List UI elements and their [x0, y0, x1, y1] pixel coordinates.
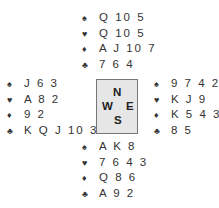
cards: Q 10 5	[99, 11, 146, 23]
heart-icon: ♥	[82, 27, 99, 42]
south-spades: ♠A K 8	[82, 139, 148, 155]
south-hearts: ♥7 6 4 3	[82, 155, 148, 171]
south-clubs: ♣A 9 2	[82, 186, 148, 202]
north-diamonds: ♦A J 10 7	[82, 41, 157, 57]
club-icon: ♣	[82, 187, 99, 202]
heart-icon: ♥	[82, 156, 99, 171]
club-icon: ♣	[82, 58, 99, 73]
west-spades: ♠J 6 3	[7, 76, 98, 92]
east-spades: ♠9 7 4 2	[154, 76, 219, 92]
west-clubs: ♣K Q J 10 3	[7, 123, 98, 139]
south-hand: ♠A K 8 ♥7 6 4 3 ♦Q 8 6 ♣A 9 2	[82, 139, 148, 201]
compass-west: W	[102, 100, 113, 112]
cards: 9 7 4 2	[171, 77, 219, 89]
cards: 9 2	[24, 108, 46, 120]
cards: K J 9	[171, 93, 207, 105]
east-diamonds: ♦K 5 4 3	[154, 107, 219, 123]
compass-box: N W E S	[96, 79, 138, 134]
cards: A 8 2	[24, 93, 60, 105]
diamond-icon: ♦	[82, 42, 99, 57]
spade-icon: ♠	[82, 140, 99, 155]
cards: A K 8	[99, 140, 137, 152]
east-clubs: ♣8 5	[154, 123, 219, 139]
north-hand: ♠Q 10 5 ♥Q 10 5 ♦A J 10 7 ♣7 6 4	[82, 10, 157, 72]
cards: K 5 4 3	[171, 108, 219, 120]
heart-icon: ♥	[154, 93, 171, 108]
cards: J 6 3	[24, 77, 59, 89]
compass-north: N	[113, 86, 121, 98]
north-clubs: ♣7 6 4	[82, 57, 157, 73]
west-hand: ♠J 6 3 ♥A 8 2 ♦9 2 ♣K Q J 10 3	[7, 76, 98, 138]
cards: Q 10 5	[99, 27, 146, 39]
spade-icon: ♠	[82, 11, 99, 26]
diamond-icon: ♦	[82, 171, 99, 186]
west-hearts: ♥A 8 2	[7, 92, 98, 108]
spade-icon: ♠	[154, 77, 171, 92]
west-diamonds: ♦9 2	[7, 107, 98, 123]
north-hearts: ♥Q 10 5	[82, 26, 157, 42]
cards: A J 10 7	[99, 42, 157, 54]
club-icon: ♣	[7, 124, 24, 139]
spade-icon: ♠	[7, 77, 24, 92]
cards: 7 6 4 3	[99, 156, 148, 168]
cards: K Q J 10 3	[24, 124, 98, 136]
cards: 8 5	[171, 124, 193, 136]
south-diamonds: ♦Q 8 6	[82, 170, 148, 186]
east-hand: ♠9 7 4 2 ♥K J 9 ♦K 5 4 3 ♣8 5	[154, 76, 219, 138]
cards: Q 8 6	[99, 171, 137, 183]
heart-icon: ♥	[7, 93, 24, 108]
compass-south: S	[114, 114, 122, 126]
north-spades: ♠Q 10 5	[82, 10, 157, 26]
diamond-icon: ♦	[7, 108, 24, 123]
compass-east: E	[126, 100, 134, 112]
cards: 7 6 4	[99, 58, 135, 70]
east-hearts: ♥K J 9	[154, 92, 219, 108]
club-icon: ♣	[154, 124, 171, 139]
diamond-icon: ♦	[154, 108, 171, 123]
cards: A 9 2	[99, 187, 135, 199]
